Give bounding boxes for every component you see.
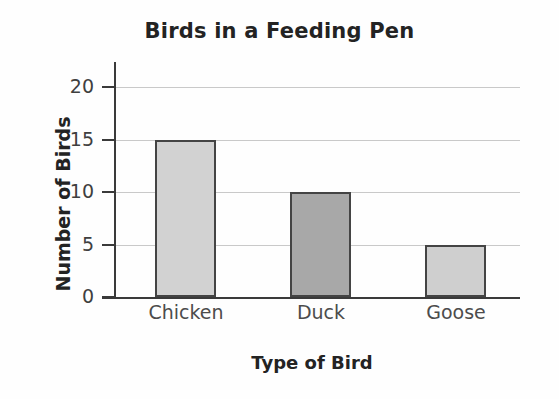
y-axis-tick — [102, 296, 116, 298]
y-axis-tick — [102, 139, 116, 141]
y-axis-tick — [102, 244, 116, 246]
bar-chicken — [155, 140, 216, 298]
bar-duck — [290, 192, 351, 297]
y-axis-tick-label: 10 — [48, 182, 94, 201]
gridline — [116, 87, 520, 88]
x-axis-title: Type of Bird — [102, 352, 522, 373]
bar-chart-figure: Birds in a Feeding Pen Number of Birds T… — [0, 0, 559, 399]
y-axis-tick-label: 15 — [48, 130, 94, 149]
bar-goose — [425, 245, 486, 298]
y-axis-tick — [102, 191, 116, 193]
y-axis-tick-label: 5 — [48, 235, 94, 254]
x-axis-tick-label-goose: Goose — [386, 302, 526, 323]
y-axis-tick — [102, 86, 116, 88]
x-axis-tick-label-duck: Duck — [251, 302, 391, 323]
y-axis-tick-label: 20 — [48, 77, 94, 96]
x-axis-tick-label-chicken: Chicken — [116, 302, 256, 323]
chart-title: Birds in a Feeding Pen — [0, 19, 559, 43]
y-axis-tick-label: 0 — [48, 287, 94, 306]
